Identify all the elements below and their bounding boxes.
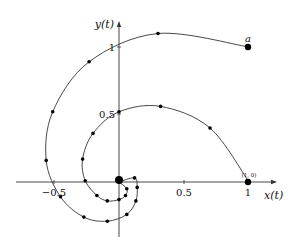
curves bbox=[46, 33, 249, 221]
sample-point bbox=[117, 198, 121, 202]
endpoint-a-label: a bbox=[245, 33, 251, 44]
sample-point bbox=[51, 110, 55, 114]
trajectory-curve bbox=[46, 33, 249, 221]
sample-point bbox=[134, 199, 138, 203]
x-tick-label: −0.5 bbox=[42, 187, 66, 198]
sample-point bbox=[135, 186, 139, 190]
sample-point bbox=[95, 194, 99, 198]
sample-point bbox=[125, 187, 129, 191]
sample-point bbox=[117, 110, 121, 114]
sample-point bbox=[83, 179, 87, 183]
sample-point bbox=[133, 176, 137, 180]
sample-point bbox=[156, 32, 160, 36]
spiral-phase-plot: −0.5 0.5 1 0.5 1 x(t) y(t) a (1, 0) bbox=[0, 0, 298, 245]
x-tick-label: 0.5 bbox=[176, 187, 192, 198]
sample-point bbox=[106, 199, 110, 203]
x-axis-arrow-icon bbox=[271, 180, 277, 184]
sample-point bbox=[208, 126, 212, 130]
sample-point bbox=[124, 194, 128, 198]
sample-point bbox=[125, 213, 129, 217]
endpoint-a-marker bbox=[245, 44, 251, 50]
sample-point bbox=[159, 105, 163, 109]
sample-point bbox=[59, 195, 63, 199]
center-marker bbox=[115, 176, 123, 184]
x-tick-label: 1 bbox=[245, 187, 251, 198]
sample-point bbox=[82, 215, 86, 219]
sample-point bbox=[44, 159, 48, 163]
sample-point bbox=[81, 157, 85, 161]
sample-point bbox=[87, 60, 91, 64]
start-point-marker bbox=[245, 179, 251, 185]
y-axis-arrow-icon bbox=[117, 21, 121, 27]
start-point-label: (1, 0) bbox=[242, 172, 257, 178]
axes: −0.5 0.5 1 0.5 1 x(t) y(t) bbox=[16, 18, 283, 237]
sample-point bbox=[106, 219, 110, 223]
sample-point bbox=[91, 132, 95, 136]
y-axis-label: y(t) bbox=[94, 18, 114, 31]
x-axis-label: x(t) bbox=[264, 189, 283, 202]
